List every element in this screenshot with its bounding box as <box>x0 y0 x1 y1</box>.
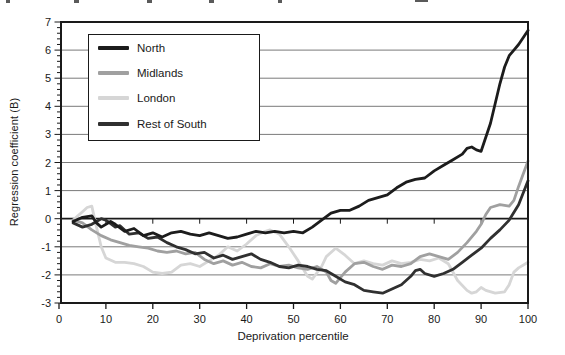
legend-label-rest-of-south: Rest of South <box>137 117 207 131</box>
y-tick-label: 1 <box>45 185 51 197</box>
y-tick-label: 7 <box>45 16 51 28</box>
cropped-caption-fragment <box>209 0 214 3</box>
y-tick-label: 4 <box>45 100 51 112</box>
x-tick-label: 60 <box>334 313 346 325</box>
legend-item-london: London <box>89 91 259 105</box>
x-tick-label: 80 <box>428 313 440 325</box>
x-tick-label: 20 <box>147 313 159 325</box>
y-tick-label: 3 <box>45 128 51 140</box>
legend-swatch-north <box>98 46 129 50</box>
x-tick-label: 70 <box>381 313 393 325</box>
legend-swatch-midlands <box>98 71 129 75</box>
y-tick-label: 2 <box>45 157 51 169</box>
x-axis-title: Deprivation percentile <box>213 330 373 342</box>
cropped-caption-fragment <box>415 0 428 2</box>
legend-swatch-rest-of-south <box>98 122 129 126</box>
y-axis-title: Regression coefficient (B) <box>8 87 20 237</box>
legend-label-north: North <box>137 41 165 55</box>
legend-item-rest-of-south: Rest of South <box>89 117 259 131</box>
chart-svg: -3-2-1012345670102030405060708090100 <box>0 0 565 355</box>
legend-label-london: London <box>137 91 175 105</box>
legend-swatch-london <box>98 96 129 100</box>
cropped-caption-fragment <box>147 0 152 3</box>
legend-label-midlands: Midlands <box>137 66 183 80</box>
x-tick-label: 40 <box>240 313 252 325</box>
y-tick-label: -3 <box>41 297 51 309</box>
legend-item-midlands: Midlands <box>89 66 259 80</box>
y-tick-label: 5 <box>45 72 51 84</box>
x-tick-label: 50 <box>287 313 299 325</box>
y-tick-label: -1 <box>41 241 51 253</box>
legend-box: North Midlands London Rest of South <box>88 34 260 141</box>
figure-root: -3-2-1012345670102030405060708090100 Reg… <box>0 0 565 355</box>
x-tick-label: 30 <box>194 313 206 325</box>
x-tick-label: 90 <box>475 313 487 325</box>
x-tick-label: 0 <box>56 313 62 325</box>
x-tick-label: 10 <box>100 313 112 325</box>
series-line-rest-of-south <box>73 181 528 293</box>
y-tick-label: -2 <box>41 269 51 281</box>
y-tick-label: 6 <box>45 44 51 56</box>
y-tick-label: 0 <box>45 213 51 225</box>
x-tick-label: 100 <box>519 313 537 325</box>
cropped-caption-fragment <box>278 0 282 3</box>
cropped-caption-fragment <box>6 0 10 3</box>
cropped-caption-fragment <box>74 0 79 3</box>
legend-item-north: North <box>89 41 259 55</box>
